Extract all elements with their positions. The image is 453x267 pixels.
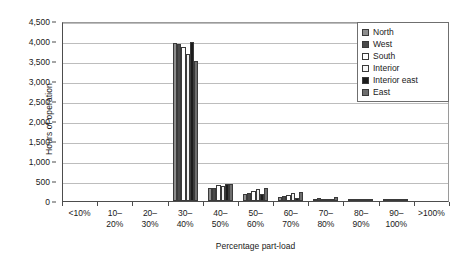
y-axis-tick-mark [52,122,56,123]
x-axis-tick-label: 20–30% [132,208,167,240]
legend-swatch-icon [362,29,369,36]
y-axis-tick-mark [52,142,56,143]
y-axis-tick-label: 0 [45,198,50,207]
x-axis-tick-mark [343,202,344,206]
legend-label: Interior east [373,75,418,85]
legend-swatch-icon [362,89,369,96]
x-axis-tick-label: 30–40% [168,208,203,240]
x-axis-tick-label: >100% [414,208,449,240]
x-axis-tick-label-line: 80% [308,219,343,230]
bar [264,188,268,201]
x-axis-tick-mark [168,202,169,206]
legend-item[interactable]: North [362,26,445,38]
bar-group [98,23,133,201]
legend-label: North [373,27,394,37]
x-axis-tick-label: <10% [62,208,97,240]
x-axis-tick-labels: <10%10–20%20–30%30–40%40–50%50–60%60–70%… [62,208,449,240]
y-axis-tick-mark [52,82,56,83]
x-axis-tick-label: 90–100% [379,208,414,240]
x-axis-tick-label: 80–90% [344,208,379,240]
x-axis-tick-label: 50–60% [238,208,273,240]
x-axis-title: Percentage part-load [62,241,449,251]
y-axis-tick-label: 500 [36,178,50,187]
x-axis-tick-mark [97,202,98,206]
bar-group [63,23,98,201]
y-axis-tick-label: 4,500 [29,18,50,27]
x-axis-tick-label-line: 10– [97,208,132,219]
y-axis-tick-label: 1,500 [29,138,50,147]
bar [334,197,338,201]
bar [229,184,233,201]
x-axis-tick-mark [62,202,63,206]
x-axis-tick-label-line: 40– [203,208,238,219]
bar-group [133,23,168,201]
x-axis-tick-label-line: <10% [62,208,97,219]
x-axis-tick-mark [238,202,239,206]
x-axis-tick-mark [203,202,204,206]
legend-swatch-icon [362,65,369,72]
legend-swatch-icon [362,53,369,60]
y-axis-tick-mark [52,202,56,203]
legend-item[interactable]: Interior east [362,74,445,86]
bar [369,199,373,201]
x-axis-tick-mark [449,202,450,206]
bar-group [203,23,238,201]
bar [194,61,198,201]
x-axis-tick-label-line: 50% [203,219,238,230]
legend-label: Interior [373,63,399,73]
x-axis-tick-label-line: 70– [308,208,343,219]
bar [404,199,408,201]
x-axis-tick-label-line: 60% [238,219,273,230]
y-axis-tick-mark [52,102,56,103]
legend-item[interactable]: South [362,50,445,62]
bar-group [168,23,203,201]
legend-label: South [373,51,395,61]
x-axis-tick-label-line: 50– [238,208,273,219]
x-axis-tick-label: 40–50% [203,208,238,240]
x-axis-tick-label-line: 40% [168,219,203,230]
y-axis-tick-mark [52,162,56,163]
y-axis-tick-label: 1,000 [29,158,50,167]
y-axis-tick-label: 3,000 [29,78,50,87]
y-axis-tick-mark [52,42,56,43]
x-axis-tick-label: 70–80% [308,208,343,240]
y-axis-tick-label: 2,500 [29,98,50,107]
x-axis-tick-mark [273,202,274,206]
x-axis-tick-label-line: 90– [379,208,414,219]
legend-item[interactable]: East [362,86,445,98]
x-axis-tick-label-line: 20% [97,219,132,230]
bar-group [308,23,343,201]
x-axis-tick-mark [414,202,415,206]
x-axis-tick-label-line: 30% [132,219,167,230]
x-axis-tick-label: 10–20% [97,208,132,240]
legend-swatch-icon [362,77,369,84]
legend-label: West [373,39,392,49]
x-axis-tick-mark [132,202,133,206]
x-axis-tick-marks [62,202,449,206]
bar [299,192,303,201]
bar-group [238,23,273,201]
y-axis-tick-labels: 05001,0001,5002,0002,5003,0003,5004,0004… [14,22,56,202]
x-axis-tick-mark [379,202,380,206]
y-axis-tick-label: 4,000 [29,38,50,47]
y-axis-tick-label: 2,000 [29,118,50,127]
legend-swatch-icon [362,41,369,48]
x-axis-tick-label-line: >100% [414,208,449,219]
legend-item[interactable]: Interior [362,62,445,74]
y-axis-tick-mark [52,22,56,23]
x-axis-tick-label-line: 90% [344,219,379,230]
y-axis-tick-mark [52,182,56,183]
bar-group [273,23,308,201]
x-axis-tick-label-line: 70% [273,219,308,230]
chart-legend: NorthWestSouthInteriorInterior eastEast [357,22,449,102]
x-axis-tick-label-line: 100% [379,219,414,230]
x-axis-tick-label-line: 60– [273,208,308,219]
x-axis-tick-label-line: 80– [344,208,379,219]
y-axis-tick-label: 3,500 [29,58,50,67]
x-axis-tick-mark [308,202,309,206]
x-axis-tick-label: 60–70% [273,208,308,240]
x-axis-tick-label-line: 20– [132,208,167,219]
x-axis-tick-label-line: 30– [168,208,203,219]
bar-chart: Hours of operation 05001,0001,5002,0002,… [0,0,453,267]
legend-item[interactable]: West [362,38,445,50]
